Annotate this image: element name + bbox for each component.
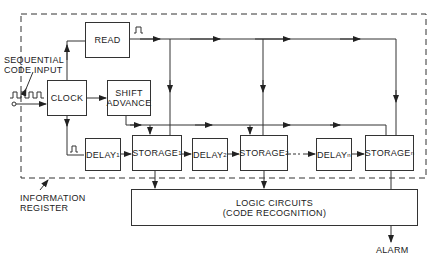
input-label-line2: CODE INPUT	[4, 65, 64, 75]
delay-n-label: DELAY	[317, 150, 347, 160]
register-label-line1: INFORMATION	[20, 193, 86, 203]
delay-1-label: DELAY	[86, 150, 116, 160]
logic-label: LOGIC CIRCUITS	[236, 198, 313, 208]
delay-n-block: DELAYn	[316, 138, 352, 171]
shift-advance-block: SHIFT ADVANCE	[107, 80, 151, 116]
alarm-label: ALARM	[376, 245, 409, 255]
delay-1-block: DELAY1	[85, 138, 121, 171]
delay-2-label: DELAY	[193, 150, 223, 160]
delay-2-block: DELAY2	[192, 138, 228, 171]
delay-n-sub: n	[347, 150, 351, 160]
clock-block: CLOCK	[47, 80, 87, 116]
delay-2-sub: 2	[223, 150, 227, 160]
storage-1-sub: 1	[178, 148, 182, 158]
sequential-code-input-label: SEQUENTIAL CODE INPUT	[4, 55, 64, 75]
read-label: READ	[94, 35, 120, 45]
register-label-line2: REGISTER	[20, 203, 86, 213]
advance-label: ADVANCE	[107, 98, 152, 108]
delay-1-sub: 1	[116, 150, 120, 160]
storage-n-label: STORAGE	[365, 148, 411, 158]
read-block: READ	[85, 22, 130, 58]
storage-2-sub: 2	[285, 148, 289, 158]
storage-2-block: STORAGE2	[240, 135, 288, 171]
clock-label: CLOCK	[51, 93, 84, 103]
storage-n-sub: n	[411, 148, 415, 158]
storage-1-label: STORAGE	[132, 148, 178, 158]
input-label-line1: SEQUENTIAL	[4, 55, 64, 65]
storage-2-label: STORAGE	[239, 148, 285, 158]
input-pulse-train	[10, 92, 44, 98]
code-recognition-label: (CODE RECOGNITION)	[223, 208, 326, 218]
storage-n-block: STORAGEn	[365, 135, 414, 171]
logic-circuits-block: LOGIC CIRCUITS (CODE RECOGNITION)	[131, 189, 418, 226]
shift-label: SHIFT	[115, 88, 143, 98]
storage-1-block: STORAGE1	[132, 135, 182, 171]
information-register-label: INFORMATION REGISTER	[20, 193, 86, 213]
